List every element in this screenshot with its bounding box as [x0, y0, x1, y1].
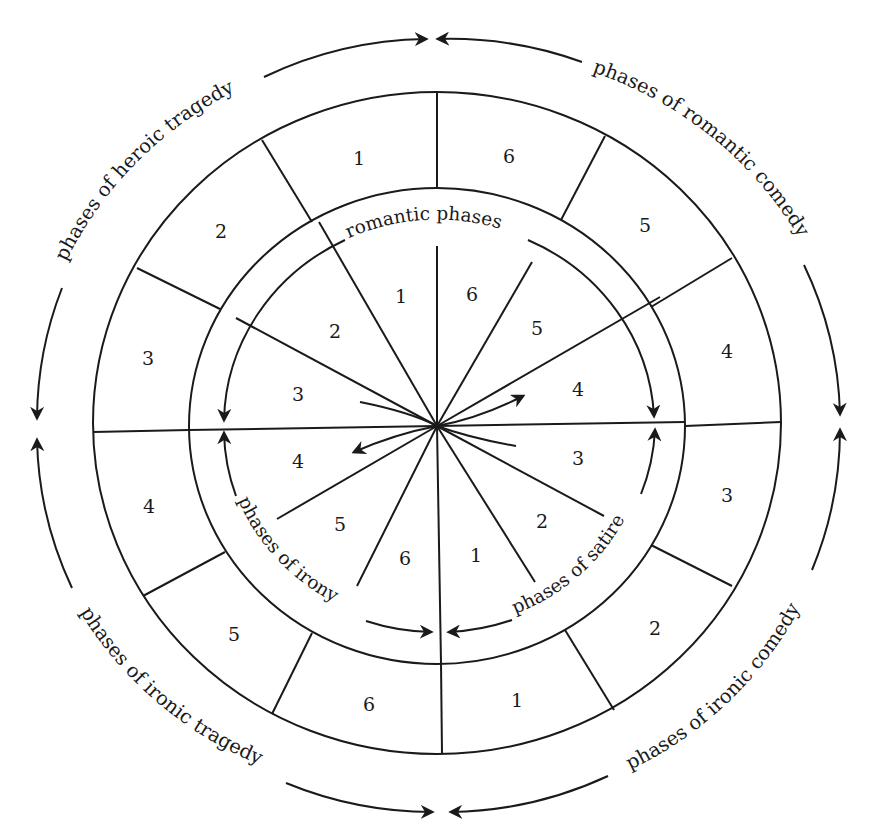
outer-num: 4 [143, 495, 155, 517]
inner-num: 3 [292, 383, 304, 405]
inner-num: 3 [572, 447, 584, 469]
inner-labels: romantic phases phases of irony phases o… [234, 203, 628, 618]
label-phases-of-satire: phases of satire [509, 510, 629, 617]
outer-num: 6 [503, 145, 515, 167]
inner-num: 4 [572, 378, 584, 400]
outer-num: 3 [142, 347, 154, 369]
outer-num: 1 [511, 689, 523, 711]
inner-num: 1 [470, 544, 482, 566]
outer-labels: phases of heroic tragedy phases of roman… [50, 55, 814, 775]
heroic-arrow-down [37, 288, 62, 418]
inner-num: 6 [466, 283, 478, 305]
outer-num: 2 [649, 617, 661, 639]
outer-num: 1 [353, 147, 365, 169]
label-romantic-phases: romantic phases [342, 203, 505, 242]
center-point [434, 423, 440, 429]
outer-num: 5 [228, 623, 240, 645]
inner-num: 4 [292, 450, 304, 472]
irony-arrow-up [224, 433, 236, 496]
irontrag-arrow-up [37, 440, 72, 588]
inner-num: 2 [329, 320, 341, 342]
ironcom-arrow-left [451, 776, 608, 812]
inner-num: 5 [334, 513, 346, 535]
inner-num: 2 [536, 510, 548, 532]
irontrag-arrow-right [286, 783, 432, 812]
outer-num: 4 [721, 340, 733, 362]
outer-num: 2 [215, 220, 227, 242]
inner-num: 5 [531, 317, 543, 339]
outer-num: 6 [363, 693, 375, 715]
inner-num: 6 [399, 547, 411, 569]
label-phases-of-irony: phases of irony [234, 493, 342, 606]
romcom-arrow-down [804, 265, 840, 414]
outer-num: 5 [639, 214, 651, 236]
romantic-arrow-right [528, 240, 654, 416]
phases-wheel-diagram: phases of heroic tragedy phases of roman… [0, 0, 869, 838]
inner-num: 1 [395, 285, 407, 307]
irony-arrow-right [366, 621, 431, 632]
outer-num: 3 [721, 484, 733, 506]
label-heroic-tragedy: phases of heroic tragedy [50, 75, 237, 264]
satire-arrow-left [449, 620, 512, 632]
romantic-arrow-left [224, 240, 345, 420]
romcom-arrow-left [438, 39, 582, 62]
ironcom-arrow-up [812, 430, 840, 570]
satire-arrow-up [641, 430, 655, 494]
heroic-arrow-right [264, 39, 426, 77]
